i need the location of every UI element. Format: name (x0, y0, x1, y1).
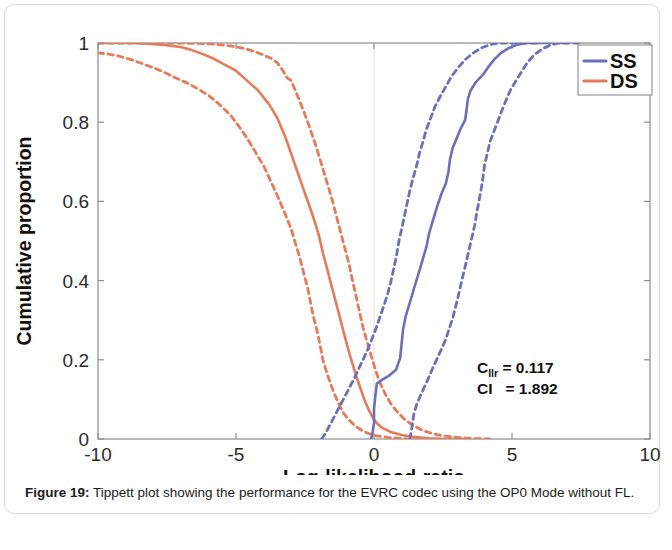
series-ds (98, 43, 468, 439)
annotation-ci: CI= 1.892 (477, 380, 558, 397)
y-tick-label: 0.4 (63, 271, 90, 292)
legend-label-ds: DS (610, 70, 638, 92)
x-tick-label: 10 (639, 444, 660, 465)
x-axis-title: Log-likelihood-ratio (283, 466, 465, 475)
x-tick-label: 0 (369, 444, 380, 465)
y-tick-label: 1 (78, 33, 89, 54)
figure-card: -10-5051000.20.40.60.81Log-likelihood-ra… (4, 4, 660, 514)
series-ds-lower-bound (98, 53, 418, 439)
y-axis-title: Cumulative proportion (13, 136, 35, 345)
figure-caption: Figure 19: Tippett plot showing the perf… (25, 483, 645, 502)
y-tick-label: 0.6 (63, 191, 89, 212)
annotation-cllr: Cllr = 0.117 (477, 359, 554, 379)
y-tick-label: 0 (78, 429, 89, 450)
chart-container: -10-5051000.20.40.60.81Log-likelihood-ra… (5, 5, 672, 475)
caption-body: Tippett plot showing the performance for… (90, 485, 635, 500)
x-tick-label: -5 (228, 444, 245, 465)
legend-label-ss: SS (610, 50, 637, 72)
tippett-plot: -10-5051000.20.40.60.81Log-likelihood-ra… (5, 5, 672, 475)
x-tick-label: 5 (507, 444, 518, 465)
y-tick-label: 0.2 (63, 350, 89, 371)
y-tick-label: 0.8 (63, 112, 89, 133)
caption-label: Figure 19 (25, 485, 85, 500)
